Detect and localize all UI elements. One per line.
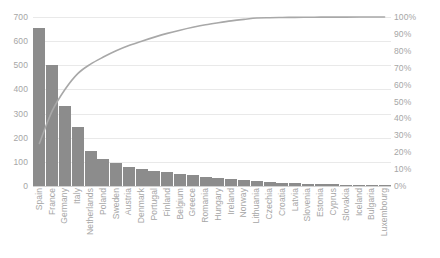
x-axis-category-label: Poland	[99, 188, 108, 215]
y-axis-right-tick: 50%	[394, 97, 411, 106]
y-axis-left-tick: 200	[14, 133, 28, 142]
x-axis-category-label: Luxembourg	[380, 188, 389, 236]
x-axis-category-label: Spain	[35, 188, 44, 210]
y-axis-left: 0100200300400500600700	[0, 0, 28, 258]
y-axis-left-tick: 700	[14, 13, 28, 22]
x-axis-category-label: Sweden	[112, 188, 121, 219]
x-axis-category-label: Ireland	[227, 188, 236, 215]
y-axis-left-tick: 300	[14, 109, 28, 118]
y-axis-right-tick: 10%	[394, 165, 411, 174]
y-axis-left-tick: 600	[14, 37, 28, 46]
y-axis-right-tick: 80%	[394, 47, 411, 56]
x-axis-category-label: Greece	[188, 188, 197, 216]
y-axis-left-tick: 0	[23, 182, 28, 191]
pareto-chart: 0100200300400500600700 0%10%20%30%40%50%…	[0, 0, 440, 258]
x-axis-category-label: Slovenia	[303, 188, 312, 221]
y-axis-right-tick: 100%	[394, 13, 416, 22]
x-axis-category-label: Austria	[124, 188, 133, 215]
x-axis-category-label: France	[48, 188, 57, 215]
y-axis-left-tick: 500	[14, 61, 28, 70]
y-axis-right-tick: 20%	[394, 148, 411, 157]
y-axis-left-tick: 400	[14, 85, 28, 94]
x-axis-category-label: Estonia	[316, 188, 325, 217]
x-axis-category-label: Lithuania	[252, 188, 261, 223]
y-axis-left-tick: 100	[14, 158, 28, 167]
x-axis-category-labels: SpainFranceGermanyItalyNetherlandsPoland…	[33, 188, 391, 258]
y-axis-right-tick: 0%	[394, 182, 407, 191]
y-axis-right-tick: 60%	[394, 80, 411, 89]
x-axis-category-label: Italy	[73, 188, 82, 204]
y-axis-right-tick: 70%	[394, 63, 411, 72]
y-axis-right-tick: 40%	[394, 114, 411, 123]
x-axis-category-label: Portugal	[150, 188, 159, 220]
x-axis-category-label: Bulgaria	[367, 188, 376, 220]
x-axis-category-label: Denmark	[137, 188, 146, 223]
x-axis-category-label: Iceland	[355, 188, 364, 216]
x-axis-category-label: Czechia	[265, 188, 274, 219]
x-axis-category-label: Hungary	[214, 188, 223, 221]
x-axis-category-label: Germany	[60, 188, 69, 224]
y-axis-right-tick: 30%	[394, 131, 411, 140]
x-axis-category-label: Cyprus	[329, 188, 338, 216]
x-axis-category-label: Belgium	[176, 188, 185, 219]
x-axis-category-label: Latvia	[291, 188, 300, 211]
x-axis-category-label: Romania	[201, 188, 210, 223]
y-axis-right-tick: 90%	[394, 30, 411, 39]
x-axis-category-label: Finland	[163, 188, 172, 217]
y-axis-right: 0%10%20%30%40%50%60%70%80%90%100%	[394, 0, 438, 258]
cumulative-line	[39, 17, 384, 143]
x-axis-category-label: Croatia	[278, 188, 287, 216]
x-axis-category-label: Netherlands	[86, 188, 95, 235]
gridline	[33, 186, 391, 187]
cumulative-line-series	[33, 17, 391, 186]
x-axis-category-label: Norway	[239, 188, 248, 217]
x-axis-category-label: Slovakia	[342, 188, 351, 221]
plot-area	[33, 17, 391, 186]
